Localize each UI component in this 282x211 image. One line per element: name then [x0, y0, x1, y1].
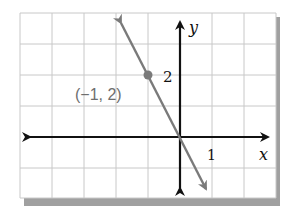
y-tick-label: 2: [163, 68, 173, 86]
x-axis-label: x: [259, 145, 268, 164]
y-axis-label: y: [188, 18, 199, 37]
point-marker: [144, 71, 153, 80]
x-tick-label: 1: [207, 147, 216, 163]
coordinate-graph: y x 2 1 (−1, 2): [0, 0, 282, 211]
point-label: (−1, 2): [75, 86, 122, 103]
